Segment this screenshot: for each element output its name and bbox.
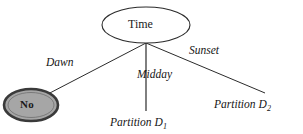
leaf-label-partition-d1: Partition D1: [110, 117, 167, 129]
node-label-no: No: [20, 99, 34, 110]
edge-label-dawn: Dawn: [46, 57, 73, 69]
tree-diagram: Time No Dawn Midday Sunset Partition D1 …: [0, 0, 303, 134]
leaf-label-partition-d1-text: Partition D: [110, 116, 163, 128]
leaf-label-partition-d2: Partition D2: [214, 99, 271, 111]
edge-line-dawn: [46, 43, 146, 95]
leaf-label-partition-d1-subscript: 1: [163, 122, 167, 131]
leaf-label-partition-d2-text: Partition D: [214, 98, 267, 110]
leaf-label-partition-d2-subscript: 2: [267, 104, 271, 113]
edge-label-midday: Midday: [137, 69, 172, 81]
edge-label-sunset: Sunset: [189, 45, 219, 57]
node-label-time: Time: [128, 18, 153, 30]
